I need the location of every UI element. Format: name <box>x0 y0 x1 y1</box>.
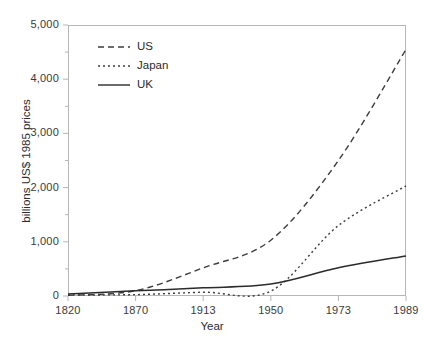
legend-label-uk: UK <box>137 79 153 91</box>
series-line-uk <box>68 256 406 294</box>
legend-label-us: US <box>137 41 153 53</box>
x-axis-title: Year <box>0 320 424 332</box>
legend-label-japan: Japan <box>137 60 168 72</box>
x-tick-label: 1913 <box>173 304 233 316</box>
legend-swatch-solid-icon <box>98 80 130 90</box>
chart-graphics-layer <box>0 0 424 343</box>
x-tick-label: 1989 <box>376 304 424 316</box>
x-tick-label: 1973 <box>308 304 368 316</box>
x-tick-label: 1820 <box>38 304 98 316</box>
y-tick-label: 5,000 <box>0 18 59 30</box>
y-tick-label: 0 <box>0 289 59 301</box>
x-tick-label: 1950 <box>241 304 301 316</box>
legend-swatch-dashed-icon <box>98 42 130 52</box>
x-axis-ticks <box>68 296 406 301</box>
legend-item-japan: Japan <box>98 56 208 75</box>
series-line-japan <box>68 186 406 296</box>
chart-container: 01,0002,0003,0004,0005,000 1820187019131… <box>0 0 424 343</box>
chart-legend: US Japan UK <box>98 37 208 94</box>
legend-item-uk: UK <box>98 75 208 94</box>
y-axis-title: billions US$ 1985 prices <box>20 61 32 261</box>
legend-item-us: US <box>98 37 208 56</box>
y-axis-ticks <box>63 25 68 296</box>
x-tick-label: 1870 <box>106 304 166 316</box>
legend-swatch-dotted-icon <box>98 61 130 71</box>
